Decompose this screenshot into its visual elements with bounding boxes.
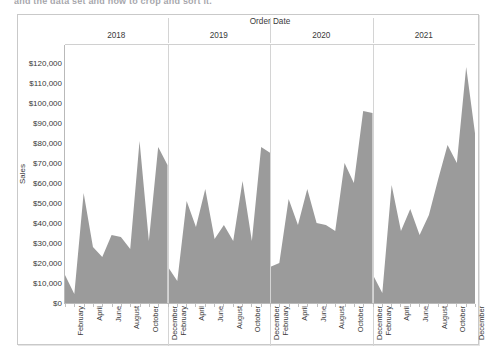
panel-container — [65, 45, 475, 303]
x-axis-tick — [214, 304, 215, 307]
x-axis-panel-2019: FebruaryAprilJuneAugustOctoberDecember — [168, 304, 271, 346]
x-axis-tick — [363, 304, 364, 307]
y-axis-tick-label: $80,000 — [33, 139, 62, 148]
x-axis-tick — [223, 304, 224, 307]
x-axis-month-label[interactable]: August — [236, 306, 244, 329]
y-axis-tick-label: $90,000 — [33, 119, 62, 128]
x-axis-tick — [298, 304, 299, 307]
x-axis-tick — [326, 304, 327, 307]
x-axis: FebruaryAprilJuneAugustOctoberDecemberFe… — [65, 304, 475, 346]
x-axis-tick — [140, 304, 141, 307]
x-axis-tick — [373, 304, 374, 307]
x-axis-month-label[interactable]: April — [198, 306, 206, 321]
plot-region — [65, 45, 475, 303]
x-axis-tick — [168, 304, 169, 307]
x-axis-tick — [391, 304, 392, 307]
year-panel-2020[interactable] — [270, 45, 373, 303]
year-header-row: 2018 2019 2020 2021 — [65, 29, 475, 44]
year-panel-2019[interactable] — [168, 45, 271, 303]
x-axis-tick — [419, 304, 420, 307]
y-axis-tick-label: $50,000 — [33, 199, 62, 208]
area-mark — [270, 111, 373, 303]
x-axis-month-label[interactable]: February — [282, 306, 290, 336]
x-axis-tick — [233, 304, 234, 307]
x-axis-tick — [149, 304, 150, 307]
y-axis: Sales $120,000$110,000$100,000$90,000$80… — [18, 45, 65, 303]
x-axis-month-label[interactable]: February — [385, 306, 393, 336]
y-axis-tick-label: $60,000 — [33, 179, 62, 188]
x-axis-tick — [121, 304, 122, 307]
x-axis-tick — [289, 304, 290, 307]
x-axis-month-label[interactable]: April — [96, 306, 104, 321]
year-panel-2021[interactable] — [373, 45, 476, 303]
x-axis-panel-2021: FebruaryAprilJuneAugustOctoberDecember — [373, 304, 476, 346]
x-axis-tick — [317, 304, 318, 307]
x-axis-month-label[interactable]: February — [77, 306, 85, 336]
area-mark — [373, 67, 476, 303]
area-mark — [65, 141, 168, 303]
x-axis-panel-2020: FebruaryAprilJuneAugustOctoberDecember — [270, 304, 373, 346]
x-axis-tick — [410, 304, 411, 307]
x-axis-month-label[interactable]: June — [422, 306, 430, 322]
y-axis-tick-label: $110,000 — [29, 79, 62, 88]
x-axis-tick — [307, 304, 308, 307]
column-header-band: Order Date 2018 2019 2020 2021 — [65, 16, 475, 44]
x-axis-tick — [177, 304, 178, 307]
area-chart-2019 — [168, 45, 271, 303]
x-axis-tick — [466, 304, 467, 307]
y-axis-tick-label: $100,000 — [29, 99, 62, 108]
y-axis-tick-label: $10,000 — [33, 279, 62, 288]
x-axis-tick — [205, 304, 206, 307]
x-axis-tick — [382, 304, 383, 307]
y-axis-tick-label: $30,000 — [33, 239, 62, 248]
x-axis-month-label[interactable]: April — [301, 306, 309, 321]
y-axis-title: Sales — [18, 164, 27, 184]
x-axis-tick — [158, 304, 159, 307]
x-axis-tick — [354, 304, 355, 307]
x-axis-panel-2018: FebruaryAprilJuneAugustOctoberDecember — [65, 304, 168, 346]
x-axis-tick — [112, 304, 113, 307]
x-axis-tick — [261, 304, 262, 307]
x-axis-tick — [447, 304, 448, 307]
x-axis-tick — [84, 304, 85, 307]
x-axis-month-label[interactable]: December — [478, 306, 486, 340]
x-axis-tick — [65, 304, 66, 307]
x-axis-tick — [438, 304, 439, 307]
x-axis-month-label[interactable]: June — [320, 306, 328, 322]
x-axis-month-label[interactable]: August — [133, 306, 141, 329]
y-axis-tick-label: $120,000 — [29, 59, 62, 68]
x-axis-tick — [270, 304, 271, 307]
x-axis-month-label[interactable]: October — [254, 306, 262, 332]
x-axis-month-label[interactable]: April — [403, 306, 411, 321]
chart-card: Order Date 2018 2019 2020 2021 Sales $12… — [17, 14, 479, 345]
area-chart-2020 — [270, 45, 373, 303]
x-axis-tick — [102, 304, 103, 307]
truncated-page-text: and the data set and how to crop and sor… — [14, 0, 344, 7]
area-chart-2021 — [373, 45, 476, 303]
y-axis-tick-label: $40,000 — [33, 219, 62, 228]
year-header-2018[interactable]: 2018 — [65, 29, 168, 44]
x-axis-tick — [242, 304, 243, 307]
year-panel-2018[interactable] — [65, 45, 168, 303]
x-axis-month-label[interactable]: February — [180, 306, 188, 336]
x-axis-tick — [428, 304, 429, 307]
x-axis-month-label[interactable]: August — [441, 306, 449, 329]
x-axis-month-label[interactable]: August — [338, 306, 346, 329]
year-header-2019[interactable]: 2019 — [168, 29, 271, 44]
y-axis-tick-label: $0 — [53, 299, 62, 308]
x-axis-month-label[interactable]: June — [217, 306, 225, 322]
area-chart-2018 — [65, 45, 168, 303]
year-header-2021[interactable]: 2021 — [373, 29, 476, 44]
x-axis-tick — [475, 304, 476, 307]
y-axis-tick-label: $20,000 — [33, 259, 62, 268]
y-axis-tick-label: $70,000 — [33, 159, 62, 168]
year-header-2020[interactable]: 2020 — [270, 29, 373, 44]
x-axis-month-label[interactable]: June — [115, 306, 123, 322]
area-mark — [168, 147, 271, 303]
x-axis-month-label[interactable]: October — [152, 306, 160, 332]
x-axis-tick — [345, 304, 346, 307]
x-axis-tick — [93, 304, 94, 307]
x-axis-tick — [186, 304, 187, 307]
x-axis-month-label[interactable]: October — [459, 306, 467, 332]
x-axis-month-label[interactable]: October — [357, 306, 365, 332]
